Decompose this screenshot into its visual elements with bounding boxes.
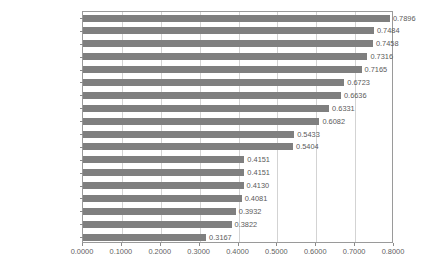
bar-row: Spalling0.7165 — [83, 64, 392, 77]
bar-row: Drainage0.7896 — [83, 12, 392, 25]
x-axis-tick-label: 0.1000 — [110, 247, 133, 256]
bar-row: Fire0.6636 — [83, 89, 392, 102]
x-axis-tick-label: 0.4000 — [226, 247, 249, 256]
bar-value-label: 0.5404 — [296, 141, 319, 152]
x-axis-tick-label: 0.7000 — [343, 247, 366, 256]
x-axis-tick-label: 0.5000 — [265, 247, 288, 256]
bar — [83, 40, 373, 47]
bar-value-label: 0.6636 — [344, 90, 367, 101]
bar — [83, 53, 367, 60]
bar-value-label: 0.3167 — [209, 232, 232, 243]
bar-value-label: 0.4151 — [247, 154, 270, 165]
x-axis-tick-label: 0.3000 — [187, 247, 210, 256]
bar-value-label: 0.7896 — [393, 13, 416, 24]
x-axis-tick — [160, 243, 161, 246]
x-axis-tick-label: 0.2000 — [148, 247, 171, 256]
bar-row: Cleaning0.5433 — [83, 128, 392, 141]
bar-value-label: 0.7316 — [370, 51, 393, 62]
bar-value-label: 0.6082 — [322, 116, 345, 127]
bar — [83, 208, 236, 215]
x-axis-tick — [276, 243, 277, 246]
bar — [83, 195, 242, 202]
bar-row: Telecommunication0.7458 — [83, 38, 392, 51]
bar-value-label: 0.7484 — [377, 25, 400, 36]
bar — [83, 143, 293, 150]
x-axis-tick — [199, 243, 200, 246]
bar — [83, 66, 362, 73]
x-axis-tick — [82, 243, 83, 246]
bar-row: Lift0.6331 — [83, 102, 392, 115]
bar-value-label: 0.4151 — [247, 167, 270, 178]
bar — [83, 131, 294, 138]
bar-value-label: 0.7458 — [376, 38, 399, 49]
bar-value-label: 0.4130 — [247, 180, 270, 191]
bar-row: Electricity0.6723 — [83, 76, 392, 89]
bar-row: Clubhouse0.4081 — [83, 192, 392, 205]
bar-row: Maintenance0.6082 — [83, 115, 392, 128]
bar-row: Age0.4130 — [83, 180, 392, 193]
x-axis-tick-label: 0.8000 — [382, 247, 405, 256]
bar — [83, 92, 341, 99]
bar-row: Foyer0.4151 — [83, 154, 392, 167]
bar — [83, 118, 319, 125]
bar-row: Carpark0.3932 — [83, 205, 392, 218]
bar-row: External0.4151 — [83, 167, 392, 180]
bar-row: MarketFoyer0.3822 — [83, 218, 392, 231]
bar — [83, 79, 344, 86]
bar-value-label: 0.6331 — [332, 103, 355, 114]
x-axis-tick — [393, 243, 394, 246]
bar — [83, 105, 329, 112]
bar — [83, 169, 244, 176]
plot-area: Drainage0.7896Security0.7484Telecommunic… — [82, 11, 393, 243]
x-axis-tick-label: 0.6000 — [304, 247, 327, 256]
x-axis-tick — [238, 243, 239, 246]
bar — [83, 15, 390, 22]
bar-value-label: 0.7165 — [365, 64, 388, 75]
x-axis-tick — [315, 243, 316, 246]
bar — [83, 156, 244, 163]
bar — [83, 221, 232, 228]
bar-value-label: 0.5433 — [297, 129, 320, 140]
bar-chart: Drainage0.7896Security0.7484Telecommunic… — [0, 0, 421, 263]
bar — [83, 27, 374, 34]
bar-row: Staircase0.5404 — [83, 141, 392, 154]
x-axis-tick — [121, 243, 122, 246]
bar — [83, 182, 244, 189]
x-axis: 0.00000.10000.20000.30000.40000.50000.60… — [82, 243, 393, 263]
x-axis-tick — [354, 243, 355, 246]
bar-value-label: 0.4081 — [245, 193, 268, 204]
bar-value-label: 0.3932 — [239, 206, 262, 217]
bar — [83, 234, 206, 241]
x-axis-tick-label: 0.0000 — [71, 247, 94, 256]
bar-row: Security0.7484 — [83, 25, 392, 38]
bar-value-label: 0.3822 — [235, 219, 258, 230]
bar-value-label: 0.6723 — [347, 77, 370, 88]
bar-row: Seepage0.7316 — [83, 51, 392, 64]
